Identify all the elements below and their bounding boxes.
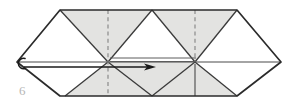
origami-figure: 6 — [0, 0, 293, 107]
origami-diagram-svg — [0, 0, 293, 107]
step-number-label: 6 — [19, 84, 26, 97]
